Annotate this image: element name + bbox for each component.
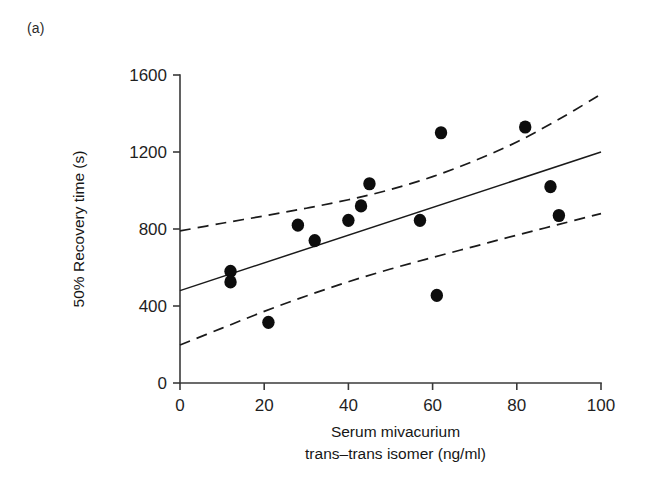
x-axis-title-line1: Serum mivacurium	[331, 423, 460, 440]
y-tick-label: 1200	[129, 143, 167, 162]
data-point	[519, 120, 531, 133]
x-tick-label: 100	[587, 396, 615, 415]
axis-titles-group: Serum mivacurium trans–trans isomer (ng/…	[70, 151, 486, 462]
scatter-plot: 040080012001600020406080100 Serum mivacu…	[0, 0, 657, 487]
y-axis-title: 50% Recovery time (s)	[70, 151, 87, 308]
data-point	[431, 289, 443, 302]
x-tick-label: 40	[339, 396, 358, 415]
tick-labels-group: 040080012001600020406080100	[129, 66, 615, 415]
lower-confidence-band	[180, 214, 601, 345]
y-axis-ticks	[173, 75, 180, 383]
x-tick-label: 20	[255, 396, 274, 415]
x-axis-title-line2: trans–trans isomer (ng/ml)	[305, 445, 486, 462]
x-tick-label: 60	[423, 396, 442, 415]
data-point	[342, 214, 354, 227]
data-points-group	[224, 120, 565, 329]
x-tick-label: 0	[175, 396, 184, 415]
data-point	[544, 180, 556, 193]
confidence-bands	[180, 94, 601, 345]
y-tick-label: 800	[139, 220, 167, 239]
y-tick-label: 0	[158, 374, 167, 393]
data-point	[309, 234, 321, 247]
data-point	[292, 219, 304, 232]
data-point	[224, 275, 236, 288]
data-point	[355, 199, 367, 212]
data-point	[553, 209, 565, 222]
axes-group	[173, 75, 601, 390]
upper-confidence-band	[180, 94, 601, 231]
data-point	[435, 126, 447, 139]
y-tick-label: 400	[139, 297, 167, 316]
figure-root: (a) 040080012001600020406080100 Serum mi…	[0, 0, 657, 487]
x-axis-title-isomer-rest: isomer (ng/ml)	[383, 445, 486, 462]
x-axis-title-isomer-italic: trans–trans	[305, 445, 383, 462]
data-point	[414, 214, 426, 227]
x-tick-label: 80	[507, 396, 526, 415]
data-point	[262, 316, 274, 329]
y-tick-label: 1600	[129, 66, 167, 85]
data-point	[363, 177, 375, 190]
x-axis-ticks	[180, 383, 601, 390]
